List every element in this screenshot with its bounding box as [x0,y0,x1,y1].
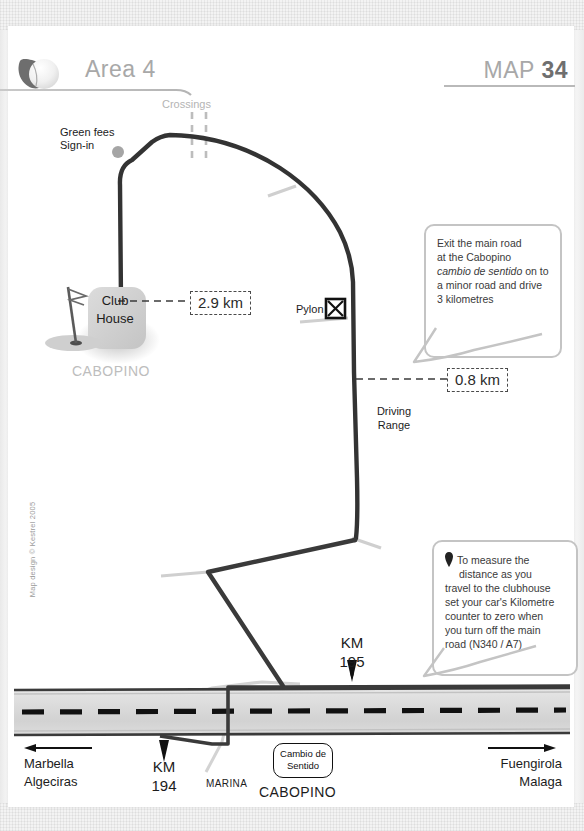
label-km-195-line1: KM [333,633,371,652]
label-crossings: Crossings [162,98,211,110]
callout1-line2: at the Cabopino [437,251,511,263]
label-km-194-line1: KM [145,757,183,776]
callout1-line4: a minor road and drive [437,279,542,291]
label-driving-range-line1: Driving [371,404,417,418]
label-pylon: Pylon [296,303,324,316]
label-cambio-line1: Cambio de [276,748,330,760]
pylon-icon [326,299,345,318]
distance-chip-clubhouse: 2.9 km [190,291,251,315]
direction-arrow-west [24,744,92,752]
callout1-italic: cambio de sentido [437,265,522,277]
callout2-line5: counter to zero when [445,610,543,622]
minor-roads [161,186,381,772]
label-malaga: Malaga [501,773,562,791]
label-green-fees: Green fees Sign-in [60,126,114,152]
map-page: Area 4 MAP 34 [0,0,584,831]
callout2-line1: To measure the [457,554,529,566]
label-marbella: Marbella [24,755,77,773]
highway-n340 [14,688,570,735]
label-km-195-line2: 195 [333,652,371,671]
label-cabopino-course: CABOPINO [72,363,150,379]
label-driving-range: Driving Range [371,404,417,432]
callout2-line6: you turn off the main [445,624,541,636]
label-direction-west: Marbella Algeciras [24,755,77,791]
label-km-194: KM 194 [145,757,183,795]
callout-2-tail [414,640,544,692]
callout2-line4: set your car's Kilometre [445,596,554,608]
label-club-house-line1: Club [88,292,142,310]
callout1-line3tail: on to [522,265,548,277]
label-algeciras: Algeciras [24,773,77,791]
label-driving-range-line2: Range [371,418,417,432]
direction-arrow-east [488,744,556,752]
map-pin-icon [445,552,453,567]
callout1-line1: Exit the main road [437,237,522,249]
callout1-line5: 3 kilometres [437,293,494,305]
copyright-notice: Map design © Kestrel 2005 [28,490,37,610]
label-club-house: Club House [88,292,142,328]
label-cabopino-junction: CABOPINO [259,786,336,799]
access-road-path [120,135,357,686]
label-km-195: KM 195 [333,633,371,671]
map-graphics [0,0,584,831]
label-direction-east: Fuengirola Malaga [501,755,562,791]
label-green-fees-line2: Sign-in [60,139,114,152]
label-cambio-de-sentido: Cambio de Sentido [273,743,333,778]
label-club-house-line2: House [88,310,142,328]
label-cambio-line2: Sentido [276,760,330,772]
label-km-194-line2: 194 [145,776,183,795]
label-fuengirola: Fuengirola [501,755,562,773]
callout2-line3: travel to the clubhouse [445,582,551,594]
callout2-line2: distance as you [445,568,532,580]
callout-1-tail [404,322,554,384]
label-green-fees-line1: Green fees [60,126,114,139]
label-marina: MARINA [206,777,247,790]
